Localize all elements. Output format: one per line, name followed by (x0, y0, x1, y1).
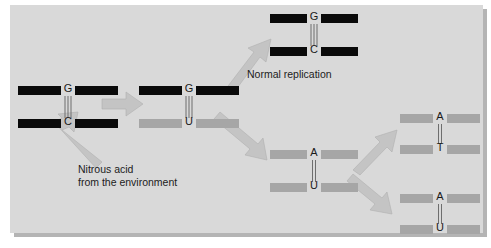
strand-segment-left (400, 114, 433, 123)
strand-segment-left (400, 194, 433, 203)
base-letter-bottom: U (433, 221, 447, 234)
base-letter-bottom: C (307, 43, 321, 56)
strand-segment-left (400, 225, 433, 234)
bottom-strand-row: U (400, 225, 480, 234)
base-pair-mutated-gu: G U (139, 86, 239, 128)
base-letter-bottom: U (307, 179, 321, 192)
top-strand-row: G (270, 14, 358, 23)
base-letter-top: G (307, 10, 321, 23)
strand-segment-right (75, 119, 118, 128)
nitrous-acid-mutagenesis-figure: G C G U (0, 0, 491, 248)
strand-segment-right (75, 86, 118, 95)
base-letter-top: A (433, 110, 447, 123)
base-pair-intermediate-au: A U (270, 150, 358, 192)
base-letter-bottom: U (182, 115, 196, 128)
base-pair-product-at: A T (400, 114, 480, 154)
base-letter-bottom: C (61, 115, 75, 128)
strand-segment-left (270, 183, 307, 192)
bottom-strand-row: T (400, 145, 480, 154)
strand-segment-right (321, 150, 358, 159)
strand-segment-left (18, 86, 61, 95)
strand-segment-right (321, 14, 358, 23)
strand-segment-left (139, 119, 182, 128)
top-strand-row: A (270, 150, 358, 159)
top-strand-row: G (18, 86, 118, 95)
strand-segment-left (400, 145, 433, 154)
top-strand-row: A (400, 114, 480, 123)
base-letter-bottom: T (433, 141, 447, 154)
base-pair-product-au: A U (400, 194, 480, 234)
strand-segment-right (321, 183, 358, 192)
bottom-strand-row: U (139, 119, 239, 128)
bottom-strand-row: C (18, 119, 118, 128)
panel-shadow-right (483, 9, 487, 237)
strand-segment-left (270, 47, 307, 56)
strand-segment-right (447, 145, 480, 154)
strand-segment-right (447, 114, 480, 123)
strand-segment-right (447, 194, 480, 203)
base-pair-replicated-gc: G C (270, 14, 358, 56)
base-letter-top: A (433, 190, 447, 203)
base-letter-top: A (307, 146, 321, 159)
strand-segment-right (196, 119, 239, 128)
strand-segment-left (270, 14, 307, 23)
label-nitrous-acid-line1: Nitrous acid (78, 163, 133, 176)
top-strand-row: A (400, 194, 480, 203)
strand-segment-left (270, 150, 307, 159)
strand-segment-right (447, 225, 480, 234)
top-strand-row: G (139, 86, 239, 95)
label-normal-replication: Normal replication (247, 68, 332, 81)
strand-segment-left (139, 86, 182, 95)
arrow-normal-replication-icon (224, 38, 274, 92)
base-letter-top: G (182, 82, 196, 95)
arrow-to-au-icon (352, 172, 400, 216)
label-nitrous-acid-line2: from the environment (78, 176, 177, 189)
arrow-to-at-icon (352, 128, 400, 172)
bottom-strand-row: C (270, 47, 358, 56)
strand-segment-left (18, 119, 61, 128)
strand-segment-right (321, 47, 358, 56)
base-pair-original-gc: G C (18, 86, 118, 128)
bottom-strand-row: U (270, 183, 358, 192)
base-letter-top: G (61, 82, 75, 95)
strand-segment-right (196, 86, 239, 95)
